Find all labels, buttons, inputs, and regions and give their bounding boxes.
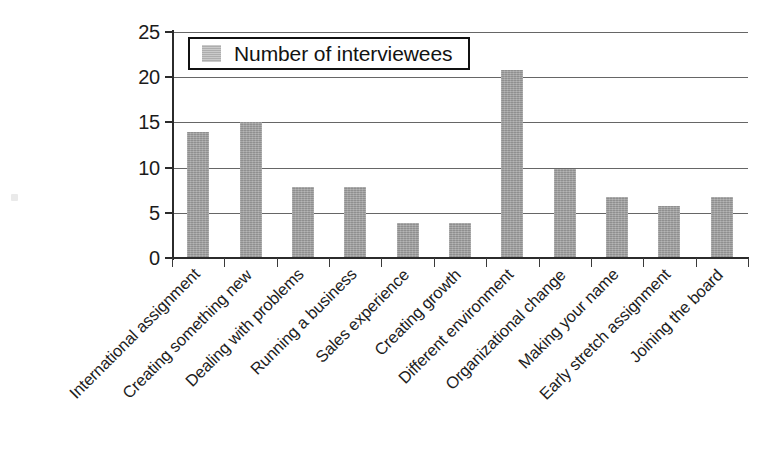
x-axis-category-label: Joining the board <box>626 266 725 365</box>
bar-chart-figure: 0510152025 Number of interviewees Intern… <box>0 0 780 464</box>
x-axis-category-label: Sales experience <box>312 266 411 365</box>
x-axis-category-labels: International assignmentCreating somethi… <box>0 0 780 464</box>
